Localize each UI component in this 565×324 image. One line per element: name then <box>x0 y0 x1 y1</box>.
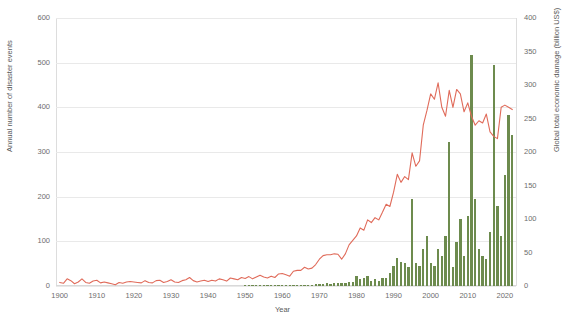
right-tick-label: 250 <box>524 115 537 123</box>
grid-line <box>56 286 516 287</box>
x-tick-label: 1920 <box>126 292 143 300</box>
right-tick-label: 150 <box>524 182 537 190</box>
right-tick-label: 350 <box>524 48 537 56</box>
left-tick-label: 500 <box>20 59 50 67</box>
right-axis-title: Global total economic damage (billion US… <box>553 8 561 152</box>
left-tick-label: 300 <box>20 148 50 156</box>
right-axis-spine <box>516 18 517 286</box>
x-tick-label: 2020 <box>497 292 514 300</box>
line-series-disaster-events <box>56 18 516 286</box>
right-tick-label: 50 <box>524 249 532 257</box>
x-tick-label: 1940 <box>200 292 217 300</box>
right-tick-label: 300 <box>524 81 537 89</box>
left-axis-title: Annual number of disaster events <box>6 40 14 152</box>
x-tick-label: 1930 <box>163 292 180 300</box>
left-tick-label: 100 <box>20 238 50 246</box>
right-tick-label: 200 <box>524 148 537 156</box>
x-tick-label: 2000 <box>422 292 439 300</box>
left-tick-label: 200 <box>20 193 50 201</box>
disaster-events-damage-chart: 0100200300400500600 05010015020025030035… <box>0 0 565 324</box>
plot-area <box>56 18 516 286</box>
left-tick-label: 0 <box>20 282 50 290</box>
left-tick-label: 600 <box>20 14 50 22</box>
events-line-path <box>60 83 513 285</box>
x-tick-label: 2010 <box>459 292 476 300</box>
right-tick-label: 100 <box>524 215 537 223</box>
x-tick-label: 1970 <box>311 292 328 300</box>
left-tick-label: 400 <box>20 104 50 112</box>
right-tick-label: 0 <box>524 282 528 290</box>
right-tick-label: 400 <box>524 14 537 22</box>
x-axis-title: Year <box>275 306 290 314</box>
x-tick-label: 1910 <box>88 292 105 300</box>
x-tick-label: 1960 <box>274 292 291 300</box>
x-tick-label: 1900 <box>51 292 68 300</box>
x-tick-label: 1990 <box>385 292 402 300</box>
x-tick-label: 1980 <box>348 292 365 300</box>
x-tick-label: 1950 <box>237 292 254 300</box>
